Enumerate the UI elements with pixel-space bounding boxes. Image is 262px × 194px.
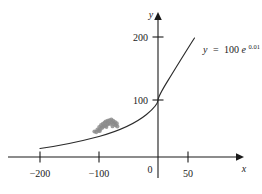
exponential-growth-figure: −200 −100 0 50 100 200 y x y = 100 e 0.0… [0,0,262,194]
curve-equation-label: y = 100 e 0.01 x [202,40,262,55]
x-tick-label-zero: 0 [148,164,153,175]
x-tick-label-minus100: −100 [89,168,110,179]
x-tick-label-minus200: −200 [30,168,51,179]
equation-coefficient: 100 [224,44,239,55]
equation-lhs: y [202,44,208,55]
x-axis [8,153,244,161]
x-tick-label-fifty: 50 [183,168,193,179]
exponential-curve [40,38,195,149]
equation-base: e [242,44,247,55]
y-tick-label-200: 200 [133,32,148,43]
y-axis-label: y [148,9,154,20]
equation-exponent: 0.01 [249,43,260,50]
equation-equals: = [213,44,219,55]
svg-text:y = 100: y = 100 e 0.01 x [202,40,262,55]
x-axis-label: x [241,163,247,174]
y-tick-label-100: 100 [133,95,148,106]
chart-canvas: −200 −100 0 50 100 200 y x y = 100 e 0.0… [0,0,262,194]
equation-exponent-variable: x [261,43,262,50]
